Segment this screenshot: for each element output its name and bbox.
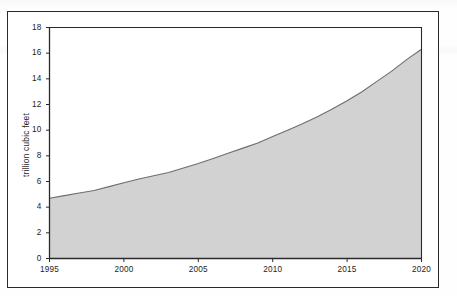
scan-artifact-top [0,0,457,9]
x-tick-label: 2015 [325,265,369,274]
y-tick-label: 2 [20,228,42,237]
y-tick-label: 16 [20,48,42,57]
y-tick-label: 0 [20,254,42,263]
x-tick-label: 2010 [251,265,295,274]
figure-canvas: 024681012141618 199520002005201020152020… [0,0,457,296]
x-tick-label: 1995 [28,265,72,274]
x-tick-label: 2000 [102,265,146,274]
y-axis-title: trillion cubic feet [21,100,31,190]
y-tick-label: 4 [20,202,42,211]
area-chart-plot [8,12,440,289]
x-tick-label: 2020 [400,265,444,274]
y-tick-label: 14 [20,74,42,83]
x-tick-label: 2005 [176,265,220,274]
y-tick-label: 18 [20,23,42,32]
chart-frame: 024681012141618 199520002005201020152020… [7,11,439,288]
